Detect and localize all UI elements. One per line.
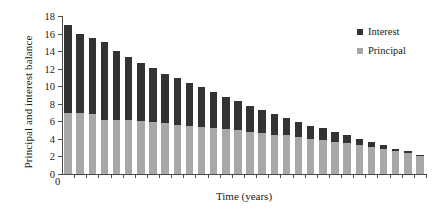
y-axis-title: Principal and interest balance <box>22 12 34 192</box>
x-axis-tick <box>268 174 269 178</box>
bar-stack <box>246 106 254 174</box>
bar-segment-principal <box>125 120 133 174</box>
legend-item-label: Interest <box>368 26 400 37</box>
bar-segment-principal <box>343 143 351 174</box>
bar-segment-principal <box>137 121 145 174</box>
legend-swatch-icon <box>357 48 363 54</box>
x-axis-tick <box>135 174 136 178</box>
bar-segment-interest <box>283 118 291 136</box>
bar-segment-principal <box>246 132 254 174</box>
x-axis-tick <box>195 174 196 178</box>
x-axis-tick <box>317 174 318 178</box>
bar-stack <box>416 155 424 174</box>
bar-segment-interest <box>161 74 169 123</box>
bar-segment-principal <box>64 113 72 174</box>
bar-segment-interest <box>331 132 339 142</box>
bar-segment-interest <box>174 78 182 125</box>
x-axis-tick <box>220 174 221 178</box>
x-axis-tick <box>377 174 378 178</box>
bar-segment-principal <box>258 133 266 174</box>
bar-stack <box>186 83 194 174</box>
bar-segment-interest <box>137 63 145 121</box>
bar-stack <box>307 126 315 174</box>
bar-segment-principal <box>186 126 194 174</box>
y-axis-tick-label: 8 <box>50 98 55 109</box>
bar-segment-interest <box>76 34 84 114</box>
x-axis-tick <box>256 174 257 178</box>
bar-segment-interest <box>234 101 242 130</box>
bar-stack <box>356 139 364 174</box>
x-axis-tick <box>402 174 403 178</box>
bar-segment-principal <box>295 137 303 174</box>
bar-stack <box>113 51 121 174</box>
bar-segment-interest <box>271 114 279 134</box>
y-axis-tick <box>58 174 62 175</box>
x-axis-tick <box>293 174 294 178</box>
bar-segment-principal <box>101 120 109 174</box>
bar-stack <box>64 25 72 174</box>
x-axis-tick <box>341 174 342 178</box>
bar-segment-interest <box>125 57 133 120</box>
bar-segment-principal <box>210 128 218 174</box>
bar-segment-interest <box>113 51 121 119</box>
x-axis-tick <box>208 174 209 178</box>
bar-segment-principal <box>149 122 157 174</box>
bar-stack <box>392 149 400 174</box>
x-axis-tick <box>414 174 415 178</box>
bar-stack <box>149 68 157 174</box>
bar-stack <box>161 74 169 174</box>
bar-segment-principal <box>76 113 84 174</box>
bar-stack <box>319 128 327 174</box>
bar-segment-interest <box>246 106 254 132</box>
bar-stack <box>210 92 218 174</box>
bar-stack <box>125 57 133 174</box>
bar-stack <box>331 132 339 174</box>
y-axis-tick-label: 6 <box>50 116 55 127</box>
x-axis-tick <box>98 174 99 178</box>
bar-segment-principal <box>392 151 400 174</box>
x-axis-origin-label: 0 <box>55 176 60 187</box>
bar-segment-principal <box>198 127 206 174</box>
x-axis-tick <box>305 174 306 178</box>
bar-segment-principal <box>416 156 424 174</box>
bar-stack <box>295 122 303 174</box>
bar-stack <box>198 87 206 174</box>
y-axis-tick-label: 18 <box>45 11 56 22</box>
x-axis-tick <box>353 174 354 178</box>
bar-stack <box>174 78 182 174</box>
bar-segment-principal <box>174 125 182 174</box>
bar-stack <box>101 42 109 174</box>
bar-stack <box>283 118 291 174</box>
bar-segment-principal <box>380 149 388 174</box>
bar-segment-principal <box>271 135 279 175</box>
x-axis-tick <box>123 174 124 178</box>
bar-segment-interest <box>258 110 266 133</box>
x-axis-tick <box>159 174 160 178</box>
bar-stack <box>271 114 279 174</box>
bar-segment-principal <box>368 147 376 174</box>
bar-segment-interest <box>222 97 230 129</box>
bar-segment-interest <box>89 38 97 114</box>
y-axis-tick-label: 12 <box>45 63 56 74</box>
bar-stack <box>258 110 266 174</box>
bar-segment-principal <box>222 129 230 174</box>
bar-segment-interest <box>210 92 218 128</box>
x-axis-tick <box>171 174 172 178</box>
bar-stack <box>234 101 242 174</box>
bar-segment-interest <box>295 122 303 137</box>
bar-stack <box>368 142 376 174</box>
x-axis-title: Time (years) <box>62 190 426 202</box>
amortization-stacked-bar-chart: Principal and interest balance 024681012… <box>0 0 439 216</box>
bar-segment-principal <box>161 123 169 174</box>
bar-segment-interest <box>198 87 206 127</box>
bar-segment-principal <box>331 142 339 174</box>
bar-segment-interest <box>101 42 109 119</box>
bar-segment-principal <box>89 114 97 174</box>
y-axis-tick-label: 16 <box>45 28 56 39</box>
legend-item: Principal <box>357 45 406 56</box>
x-axis-tick <box>365 174 366 178</box>
bar-stack <box>380 145 388 174</box>
bar-segment-interest <box>343 135 351 143</box>
bar-segment-principal <box>234 130 242 174</box>
y-axis-tick-label: 14 <box>45 46 56 57</box>
